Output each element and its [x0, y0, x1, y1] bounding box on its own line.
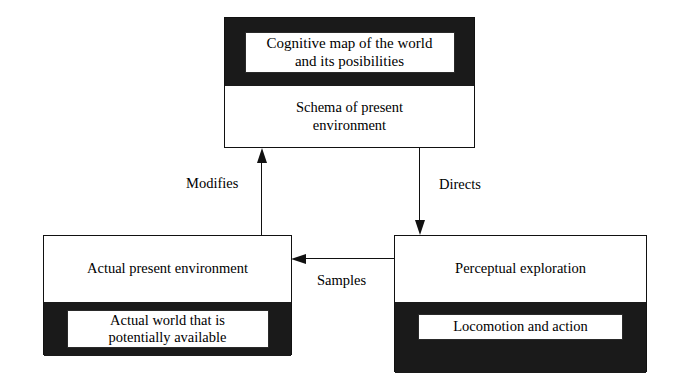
node-cognitive-map: Cognitive map of the world and its posib… — [224, 17, 475, 148]
edge-label-samples: Samples — [315, 272, 368, 289]
directs-connector-line — [419, 148, 420, 220]
perceptual-label-text: Perceptual exploration — [455, 260, 586, 278]
perceptual-white-band: Perceptual exploration — [395, 236, 646, 302]
diagram-canvas: Cognitive map of the world and its posib… — [0, 0, 686, 386]
locomotion-black-band: Locomotion and action — [395, 302, 646, 373]
cognitive-map-line1: Cognitive map of the world — [267, 35, 433, 51]
schema-line2: environment — [313, 117, 386, 133]
actual-present-label-text: Actual present environment — [87, 260, 248, 278]
node-actual-present-environment: Actual present environment Actual world … — [43, 235, 292, 355]
schema-line1: Schema of present — [296, 99, 403, 115]
modifies-connector-line — [261, 152, 262, 236]
actual-world-label-plate: Actual world that is potentially availab… — [67, 310, 269, 348]
directs-arrowhead-icon — [415, 220, 425, 235]
modifies-arrowhead-icon — [257, 148, 267, 163]
actual-world-line2: potentially available — [109, 329, 227, 345]
locomotion-label-plate: Locomotion and action — [418, 314, 623, 340]
schema-white-band: Schema of present environment — [225, 86, 474, 147]
actual-world-line1: Actual world that is — [110, 312, 225, 328]
edge-label-directs: Directs — [437, 176, 483, 193]
cognitive-black-band: Cognitive map of the world and its posib… — [225, 18, 474, 86]
samples-connector-line — [305, 258, 395, 259]
schema-label-text: Schema of present environment — [296, 99, 403, 134]
actual-present-white-band: Actual present environment — [44, 236, 291, 302]
actual-world-label-text: Actual world that is potentially availab… — [109, 312, 227, 347]
locomotion-label-text: Locomotion and action — [453, 318, 588, 335]
samples-arrowhead-icon — [291, 254, 306, 264]
node-perceptual-exploration: Perceptual exploration Locomotion and ac… — [394, 235, 647, 372]
cognitive-map-line2: and its posibilities — [295, 53, 404, 69]
actual-world-black-band: Actual world that is potentially availab… — [44, 302, 291, 356]
cognitive-map-label-plate: Cognitive map of the world and its posib… — [245, 32, 455, 73]
cognitive-map-label-text: Cognitive map of the world and its posib… — [267, 34, 433, 70]
edge-label-modifies: Modifies — [184, 175, 240, 192]
